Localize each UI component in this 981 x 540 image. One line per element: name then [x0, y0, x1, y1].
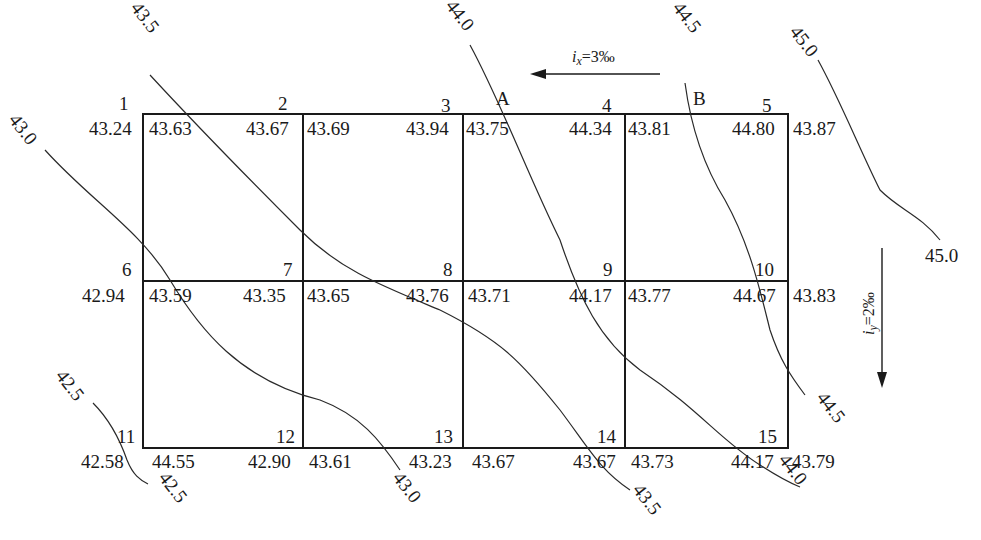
corner-id-7: 7 [283, 259, 293, 280]
elevation-15-natural: 44.17 [731, 451, 774, 472]
slope-x-label: ix=3‰ [572, 48, 615, 68]
elevation-9-natural: 44.17 [569, 285, 612, 306]
contour-label-43-0-end: 43.0 [389, 468, 426, 507]
elevation-5-design: 43.87 [793, 118, 836, 139]
corner-id-9: 9 [603, 259, 613, 280]
point-label-a: A [496, 88, 510, 109]
slope-x-indicator: ix=3‰ [530, 48, 660, 79]
elevation-13-natural: 43.23 [409, 451, 452, 472]
elevation-8-natural: 43.76 [406, 285, 449, 306]
contour-label-42-5-end: 42.5 [155, 468, 192, 507]
elevation-15-design: 43.79 [792, 451, 835, 472]
elevation-11-design: 44.55 [152, 451, 195, 472]
elevation-1-natural: 43.24 [89, 118, 132, 139]
elevation-8-design: 43.71 [468, 285, 511, 306]
contour-label-45-0-end: 45.0 [925, 245, 958, 266]
row-2-elevations: 42.94 43.59 43.35 43.65 43.76 43.71 44.1… [82, 285, 836, 306]
elevation-10-design: 43.83 [793, 285, 836, 306]
slope-y-indicator: iy=2‰ [860, 248, 887, 388]
slope-y-label: iy=2‰ [860, 292, 880, 335]
elevation-2-natural: 43.67 [246, 118, 289, 139]
corner-id-2: 2 [278, 93, 288, 114]
elevation-14-natural: 43.67 [573, 451, 616, 472]
elevation-13-design: 43.67 [472, 451, 515, 472]
contour-43-5 [150, 75, 630, 490]
elevation-12-design: 43.61 [309, 451, 352, 472]
elevation-11-natural: 42.58 [81, 451, 124, 472]
elevation-9-design: 43.77 [628, 285, 671, 306]
contour-labels: 43.0 43.0 43.5 43.5 44.0 44.0 44.5 44.5 … [5, 0, 958, 519]
contour-label-44-5-start: 44.5 [669, 0, 706, 37]
row-3-elevations: 42.58 44.55 42.90 43.61 43.23 43.67 43.6… [81, 451, 835, 472]
contour-44-0 [470, 45, 800, 487]
elevation-12-natural: 42.90 [248, 451, 291, 472]
arrow-left-icon [530, 69, 546, 79]
elevation-7-design: 43.65 [307, 285, 350, 306]
corner-id-12: 12 [276, 426, 295, 447]
point-label-b: B [693, 88, 706, 109]
elevation-3-natural: 43.94 [406, 118, 449, 139]
corner-ids: 1 2 3 4 5 6 7 8 9 10 11 12 13 14 15 [117, 93, 777, 447]
corner-id-11: 11 [117, 426, 135, 447]
corner-id-4: 4 [602, 95, 612, 116]
elevation-1-design: 43.63 [149, 118, 192, 139]
contour-label-45-0-start: 45.0 [786, 22, 823, 61]
contour-label-44-5-end: 44.5 [813, 388, 850, 427]
elevation-14-design: 43.73 [631, 451, 674, 472]
elevation-3-design: 43.75 [466, 118, 509, 139]
elevation-4-design: 43.81 [628, 118, 671, 139]
grading-diagram: 43.0 43.0 43.5 43.5 44.0 44.0 44.5 44.5 … [0, 0, 981, 540]
contour-label-43-5-start: 43.5 [127, 0, 164, 37]
arrow-down-icon [877, 372, 887, 388]
contour-label-42-5-start: 42.5 [52, 366, 89, 405]
contour-label-44-0-start: 44.0 [442, 0, 479, 35]
corner-id-14: 14 [597, 426, 617, 447]
contours [45, 45, 940, 490]
contour-label-43-0-start: 43.0 [5, 110, 42, 149]
corner-id-5: 5 [762, 95, 772, 116]
contour-45-0 [818, 60, 940, 240]
corner-id-1: 1 [119, 93, 129, 114]
corner-id-3: 3 [441, 95, 451, 116]
elevation-7-natural: 43.35 [243, 285, 286, 306]
elevation-6-natural: 42.94 [82, 285, 125, 306]
corner-id-10: 10 [755, 259, 774, 280]
elevation-4-natural: 44.34 [569, 118, 612, 139]
corner-id-13: 13 [434, 426, 453, 447]
elevation-2-design: 43.69 [307, 118, 350, 139]
elevation-5-natural: 44.80 [732, 118, 775, 139]
corner-id-8: 8 [443, 259, 453, 280]
contour-43-0 [45, 150, 400, 470]
corner-id-6: 6 [122, 259, 132, 280]
corner-id-15: 15 [758, 426, 777, 447]
contour-label-43-5-end: 43.5 [629, 480, 666, 519]
elevation-10-natural: 44.67 [733, 285, 776, 306]
elevation-6-design: 43.59 [149, 285, 192, 306]
grid [143, 114, 788, 448]
